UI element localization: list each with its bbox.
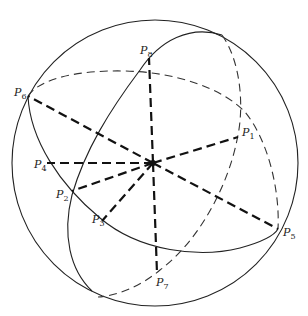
point-label-p7: P7 (155, 276, 169, 291)
point-label-subscript: 7 (163, 282, 168, 291)
ray-p1 (153, 137, 238, 163)
point-label-p3: P3 (91, 213, 105, 228)
point-label-p4: P4 (33, 158, 47, 173)
point-label-subscript: 1 (249, 132, 254, 141)
great-circle-horizontal-front (28, 96, 278, 252)
point-label-subscript: 8 (147, 50, 152, 59)
point-label-p8: P8 (139, 44, 153, 59)
point-label-p6: P6 (13, 86, 27, 101)
sphere-diagram: P1P2P3P4P5P6P7P8 (0, 0, 308, 316)
point-label-subscript: 5 (290, 232, 295, 241)
point-label-p5: P5 (282, 226, 296, 241)
great-circle-tilted-back (98, 35, 241, 297)
point-label-subscript: 3 (99, 219, 104, 228)
point-label-p1: P1 (241, 126, 255, 141)
ray-p8 (149, 58, 153, 163)
ray-p3 (102, 163, 153, 221)
point-label-subscript: 2 (63, 194, 68, 203)
point-label-subscript: 6 (21, 92, 26, 101)
point-label-p2: P2 (55, 188, 69, 203)
ray-p5 (153, 163, 278, 229)
ray-p7 (153, 163, 157, 273)
point-label-subscript: 4 (41, 164, 46, 173)
great-circle-horizontal-back (28, 71, 278, 229)
ray-p6 (28, 96, 153, 163)
center-point (150, 160, 156, 166)
